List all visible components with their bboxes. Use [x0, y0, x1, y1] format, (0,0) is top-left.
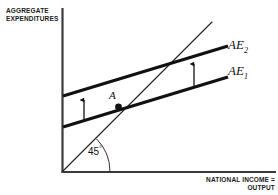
aggregate-expenditures-figure: AGGREGATE EXPENDITURES NATIONAL INCOME =… [0, 0, 278, 195]
ae2-curve-label-text: AE [228, 37, 244, 52]
y-axis-label-line2: EXPENDITURES [6, 15, 58, 23]
x-axis-label: NATIONAL INCOME = OUTPUT [206, 176, 275, 192]
diagram-canvas [0, 0, 278, 195]
degree-symbol-icon: ° [99, 145, 102, 152]
ae2-curve-label: AE2 [228, 37, 248, 55]
ae1-curve-label: AE1 [228, 63, 248, 81]
ae1-curve-label-text: AE [228, 63, 244, 78]
point-a-label: A [109, 89, 116, 101]
point-a-marker [115, 104, 122, 111]
angle-label: 45° [88, 145, 102, 157]
x-axis-label-line2: OUTPUT [206, 184, 275, 192]
ae1-curve-label-subscript: 1 [244, 72, 248, 81]
y-axis-label-line1: AGGREGATE [6, 7, 58, 15]
angle-label-value: 45 [88, 146, 99, 157]
ae2-curve-label-subscript: 2 [244, 46, 248, 55]
forty-five-degree-line [63, 22, 212, 171]
ae1-curve [63, 77, 228, 127]
x-axis-label-line1: NATIONAL INCOME = [206, 176, 275, 184]
y-axis-label: AGGREGATE EXPENDITURES [6, 7, 58, 23]
